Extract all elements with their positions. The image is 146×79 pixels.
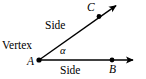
ray-ac-line <box>39 6 116 60</box>
vertex-point-a-dot <box>36 57 41 62</box>
vertex-label: Vertex <box>2 40 32 52</box>
point-a-label: A <box>27 56 34 68</box>
point-b-label: B <box>109 64 116 76</box>
point-c-dot <box>97 14 102 19</box>
angle-figure: Vertex Side Side α A B C <box>0 0 146 79</box>
point-c-label: C <box>87 2 95 14</box>
side-label-upper: Side <box>45 20 65 32</box>
point-b-dot <box>110 58 115 63</box>
angle-alpha-label: α <box>60 46 66 57</box>
side-label-lower: Side <box>60 65 80 77</box>
